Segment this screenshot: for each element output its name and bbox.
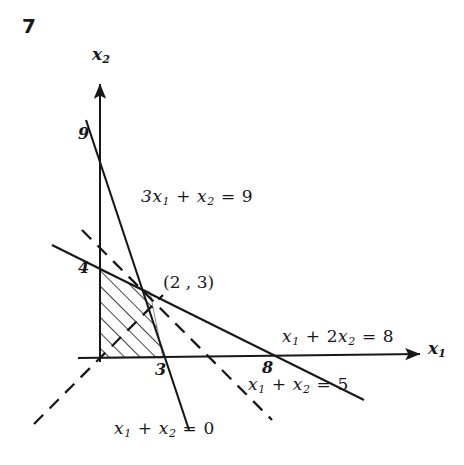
o5-sub2: 2 xyxy=(303,383,311,396)
o0-rhs: 0 xyxy=(203,418,214,438)
o0-plus: + xyxy=(138,418,153,438)
objective-label-x1-x2-0: x1 + x2 = 0 xyxy=(114,418,215,440)
objective-label-x1-x2-5: x1 + x2 = 5 xyxy=(248,374,349,396)
c1-rhs: 9 xyxy=(242,186,253,206)
c2-sub2: 2 xyxy=(348,335,356,348)
o5-var2: x xyxy=(293,374,303,394)
c1-var2: x xyxy=(197,186,207,206)
c1-sub1: 1 xyxy=(163,195,171,208)
c1-plus: + xyxy=(176,186,191,206)
c1-sub2: 2 xyxy=(207,195,215,208)
figure-canvas: 7 x2 x1 9 4 3 8 3x1 + x2 = 9 x1 + 2x2 = … xyxy=(0,0,464,465)
c2-var1: x xyxy=(282,326,292,346)
c1-var1: x xyxy=(152,186,162,206)
figure-number: 7 xyxy=(22,14,36,38)
o0-eq: = xyxy=(183,418,198,438)
o5-var1: x xyxy=(248,374,258,394)
x1-axis-var: x xyxy=(428,338,438,358)
o0-sub1: 1 xyxy=(124,427,132,440)
o5-rhs: 5 xyxy=(337,374,348,394)
o5-plus: + xyxy=(272,374,287,394)
feasible-region xyxy=(100,270,163,358)
c1-eq: = xyxy=(221,186,236,206)
tick-label-x2-9: 9 xyxy=(78,124,89,143)
c1-coef: 3 xyxy=(141,186,152,206)
o0-var2: x xyxy=(159,418,169,438)
x1-axis-subscript: 1 xyxy=(438,347,446,360)
o5-eq: = xyxy=(317,374,332,394)
c2-coef: 2 xyxy=(327,326,338,346)
tick-label-x1-3: 3 xyxy=(155,360,166,379)
c2-rhs: 8 xyxy=(383,326,394,346)
o0-sub2: 2 xyxy=(169,427,177,440)
x2-axis-label: x2 xyxy=(92,44,110,66)
tick-label-x2-4: 4 xyxy=(78,258,89,277)
x1-axis-label: x1 xyxy=(428,338,446,360)
c2-sub1: 1 xyxy=(292,335,300,348)
c2-eq: = xyxy=(362,326,377,346)
constraint-label-3x1-x2-9: 3x1 + x2 = 9 xyxy=(141,186,253,208)
objective-line-x1-x2-0 xyxy=(34,295,163,424)
o0-var1: x xyxy=(114,418,124,438)
optimal-point-label: (2 , 3) xyxy=(163,272,214,292)
c2-var2: x xyxy=(338,326,348,346)
x2-axis-subscript: 2 xyxy=(102,53,110,66)
o5-sub1: 1 xyxy=(258,383,266,396)
c2-plus: + xyxy=(306,326,321,346)
graph-drawing xyxy=(0,0,464,465)
constraint-label-x1-2x2-8: x1 + 2x2 = 8 xyxy=(282,326,394,348)
x2-axis-var: x xyxy=(92,44,102,64)
